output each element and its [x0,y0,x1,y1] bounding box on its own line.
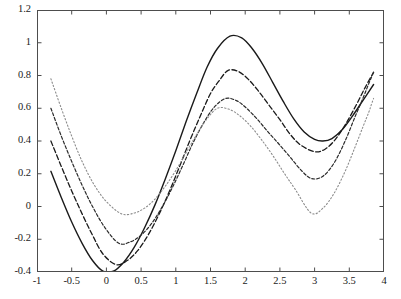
y-tick-label: 0.6 [0,101,31,112]
y-tick-label: 1.2 [0,3,31,14]
plot-background [37,10,384,272]
x-tick-label: 4 [364,275,401,286]
y-tick-label: 0.8 [0,69,31,80]
y-tick-label: 0 [0,200,31,211]
plot-svg [37,10,384,272]
y-tick-label: 0.2 [0,167,31,178]
y-tick-label: -0.2 [0,232,31,243]
plot-area [37,10,384,272]
y-tick-label: 1 [0,36,31,47]
chart-figure: -0.4-0.200.20.40.60.811.2 -1-0.500.511.5… [0,0,401,299]
y-tick-label: 0.4 [0,134,31,145]
